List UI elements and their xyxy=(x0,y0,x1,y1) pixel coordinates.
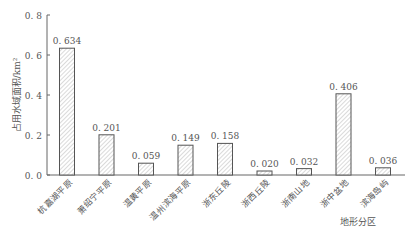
category-label: 温黄平原 xyxy=(121,177,154,210)
bar-chart: 0. 00. 20. 40. 60. 8占用水域面积/km² 0. 634杭嘉湖… xyxy=(0,0,418,240)
y-tick-label: 0. 8 xyxy=(25,11,42,21)
bar xyxy=(60,48,75,175)
y-tick-label: 0. 6 xyxy=(25,51,42,61)
category-label: 滨海岛屿 xyxy=(358,177,391,210)
value-label: 0. 634 xyxy=(53,36,82,46)
y-tick-label: 0. 0 xyxy=(25,171,42,181)
value-label: 0. 059 xyxy=(132,151,161,161)
bar xyxy=(336,94,351,175)
value-label: 0. 201 xyxy=(92,123,121,133)
bars xyxy=(60,48,391,175)
x-axis-label: 地形分区 xyxy=(340,216,376,227)
category-label: 温州滨海平原 xyxy=(148,177,193,222)
bar xyxy=(218,143,233,175)
y-axis-label: 占用水域面积/km² xyxy=(11,57,22,132)
category-label: 浙东丘陵 xyxy=(200,177,233,210)
value-label: 0. 032 xyxy=(290,157,319,167)
category-label: 杭嘉湖平原 xyxy=(36,177,75,216)
y-tick-label: 0. 2 xyxy=(25,131,42,141)
bar xyxy=(99,135,114,175)
value-label: 0. 406 xyxy=(329,82,358,92)
value-label: 0. 020 xyxy=(250,159,279,169)
category-label: 浙中盆地 xyxy=(318,177,351,210)
bar xyxy=(376,168,391,175)
value-label: 0. 158 xyxy=(211,131,240,141)
category-label: 萧绍宁平原 xyxy=(75,177,114,216)
value-label: 0. 036 xyxy=(369,156,398,166)
bar xyxy=(178,145,193,175)
y-tick-label: 0. 4 xyxy=(25,91,42,101)
bar xyxy=(297,169,312,175)
value-label: 0. 149 xyxy=(171,133,200,143)
bar xyxy=(257,171,272,175)
category-label: 浙西丘陵 xyxy=(239,177,272,210)
category-label: 浙南山地 xyxy=(279,177,312,210)
bar xyxy=(139,163,154,175)
